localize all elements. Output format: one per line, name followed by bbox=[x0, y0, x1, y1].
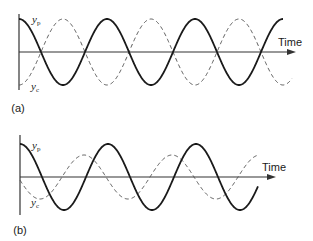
time-axis-label: Time bbox=[262, 161, 286, 173]
yp-label: yp bbox=[31, 13, 41, 27]
arrow-right-icon bbox=[267, 174, 276, 180]
yp-label: yp bbox=[31, 139, 41, 153]
phase-diagram: Timeypyc(a)Timeypyc(b) bbox=[0, 0, 313, 241]
arrow-right-icon bbox=[287, 49, 296, 55]
yc-label: yc bbox=[30, 80, 39, 94]
time-axis-label: Time bbox=[278, 36, 302, 48]
yc-label: yc bbox=[30, 196, 39, 210]
panel-label: (a) bbox=[11, 102, 24, 114]
panel-b: Timeypyc(b) bbox=[13, 135, 286, 236]
panel-a: Timeypyc(a) bbox=[11, 13, 302, 114]
panel-label: (b) bbox=[13, 224, 26, 236]
